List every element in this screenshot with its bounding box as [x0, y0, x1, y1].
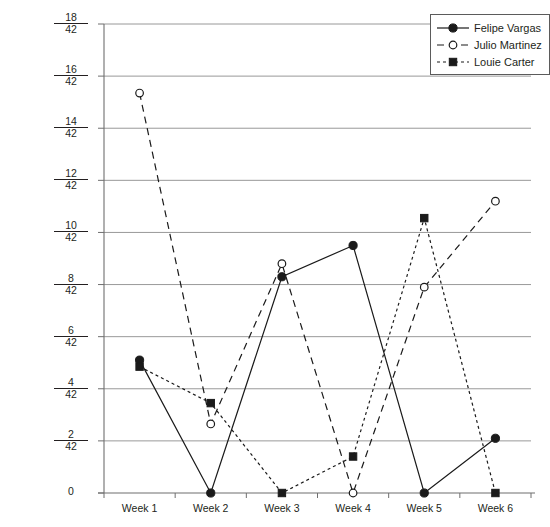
marker-louie-carter [136, 363, 143, 370]
marker-julio-martinez [207, 420, 215, 428]
x-tick-label: Week 4 [335, 502, 370, 514]
legend-marker [449, 23, 457, 31]
marker-julio-martinez [278, 260, 286, 268]
y-tick-label: 1442 [54, 116, 88, 139]
legend-marker-icon [436, 38, 470, 52]
legend-item-louie-carter[interactable]: Louie Carter [436, 53, 542, 70]
marker-julio-martinez [420, 283, 428, 291]
x-tick-label: Week 6 [478, 502, 513, 514]
legend-label: Louie Carter [474, 56, 535, 68]
y-tick-numerator: 6 [54, 325, 88, 337]
legend-sample-swatch [436, 55, 470, 69]
series-line-julio-martinez [140, 93, 496, 493]
y-tick-denominator: 42 [54, 180, 88, 191]
y-tick-numerator: 8 [54, 273, 88, 285]
x-tick-label: Week 5 [407, 502, 442, 514]
marker-julio-martinez [492, 197, 500, 205]
y-tick-label: 242 [54, 429, 88, 452]
y-tick-label: 0 [54, 486, 88, 497]
marker-felipe-vargas [420, 489, 428, 497]
x-tick-label: Week 3 [264, 502, 299, 514]
legend-label: Felipe Vargas [474, 22, 541, 34]
marker-louie-carter [349, 453, 356, 460]
y-tick-denominator: 42 [54, 24, 88, 35]
legend-item-julio-martinez[interactable]: Julio Martinez [436, 36, 542, 53]
y-tick-denominator: 42 [54, 285, 88, 296]
marker-louie-carter [207, 399, 214, 406]
marker-julio-martinez [349, 489, 357, 497]
marker-felipe-vargas [207, 489, 215, 497]
y-tick-numerator: 4 [54, 377, 88, 389]
y-tick-denominator: 42 [54, 389, 88, 400]
legend-label: Julio Martinez [474, 39, 542, 51]
y-tick-label: 1242 [54, 168, 88, 191]
marker-louie-carter [421, 214, 428, 221]
legend-sample-swatch [436, 38, 470, 52]
marker-louie-carter [492, 489, 499, 496]
y-tick-denominator: 42 [54, 128, 88, 139]
marker-julio-martinez [136, 89, 144, 97]
legend-marker-icon [436, 55, 470, 69]
x-tick-label: Week 2 [193, 502, 228, 514]
chart-legend: Felipe VargasJulio MartinezLouie Carter [430, 14, 550, 75]
legend-sample-swatch [436, 21, 470, 35]
y-tick-value: 0 [54, 486, 88, 497]
marker-louie-carter [278, 489, 285, 496]
y-tick-label: 442 [54, 377, 88, 400]
y-tick-denominator: 42 [54, 337, 88, 348]
y-tick-label: 842 [54, 273, 88, 296]
y-tick-denominator: 42 [54, 441, 88, 452]
series-line-felipe-vargas [140, 245, 496, 493]
marker-felipe-vargas [491, 434, 499, 442]
x-tick-label: Week 1 [122, 502, 157, 514]
y-tick-label: 1042 [54, 220, 88, 243]
y-tick-denominator: 42 [54, 232, 88, 243]
y-tick-label: 1842 [54, 12, 88, 35]
legend-item-felipe-vargas[interactable]: Felipe Vargas [436, 19, 542, 36]
legend-marker [449, 41, 457, 49]
marker-felipe-vargas [278, 273, 286, 281]
y-tick-label: 1642 [54, 64, 88, 87]
y-tick-denominator: 42 [54, 76, 88, 87]
marker-felipe-vargas [349, 241, 357, 249]
legend-marker [449, 58, 456, 65]
legend-marker-icon [436, 21, 470, 35]
y-tick-label: 642 [54, 325, 88, 348]
series-line-louie-carter [140, 218, 496, 493]
